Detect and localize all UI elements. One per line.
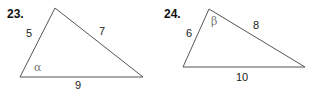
angle-beta-label: β [211,15,217,28]
problem-24: 24. 6 8 β 10 [164,7,305,83]
side-bottom-label: 9 [75,79,81,91]
angle-alpha-label: α [34,61,42,74]
side-right-label: 7 [99,25,105,37]
problem-number: 24. [164,7,181,21]
side-left-label: 6 [186,27,192,39]
triangle-diagrams: 23. 5 7 α 9 24. 6 8 β 10 [0,0,313,94]
side-left-label: 5 [26,27,32,39]
triangle-24 [183,9,305,67]
side-right-label: 8 [253,19,259,31]
side-bottom-label: 10 [236,71,248,83]
problem-number: 23. [7,7,24,21]
problem-23: 23. 5 7 α 9 [7,7,143,91]
